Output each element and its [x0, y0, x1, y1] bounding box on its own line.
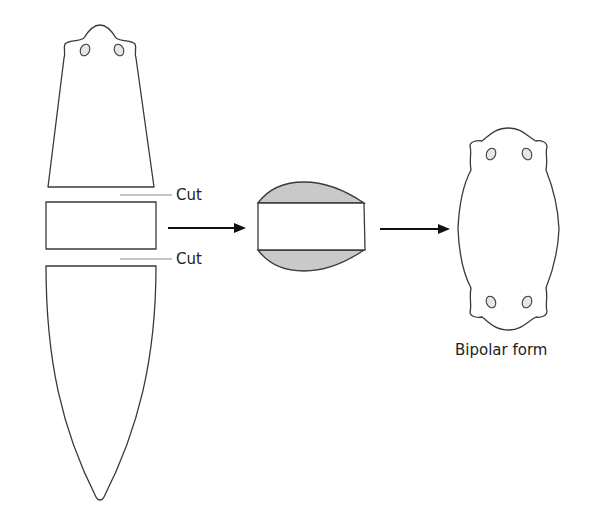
bipolar-form-label: Bipolar form	[455, 341, 547, 359]
head-fragment	[48, 25, 154, 187]
planarian-regeneration-diagram: Cut Cut Bipolar form	[0, 0, 608, 522]
arrow-right-icon	[380, 224, 450, 234]
cut-label-top: Cut	[176, 186, 202, 204]
middle-fragment	[46, 202, 156, 249]
bipolar-planarian	[458, 128, 559, 330]
cut-label-bottom: Cut	[176, 250, 202, 268]
arrow-right-icon	[168, 223, 246, 233]
tail-fragment	[46, 266, 156, 500]
regenerating-fragment	[258, 182, 365, 271]
